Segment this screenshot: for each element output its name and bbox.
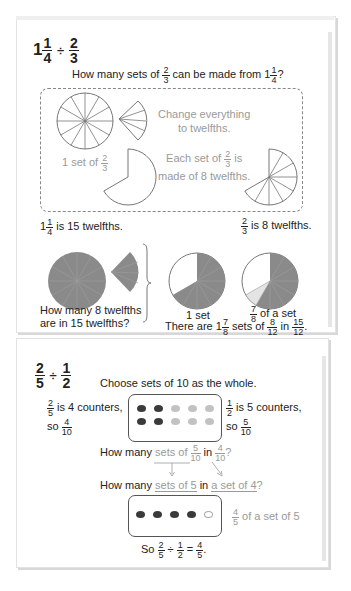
- fifteen-twelfths-caption: 114 is 15 twelfths.: [40, 218, 123, 237]
- brace-icon: [142, 243, 152, 323]
- section-2-subtitle: Choose sets of 10 as the whole.: [100, 377, 257, 389]
- counter-dark: [136, 511, 145, 518]
- filled-wedge-icon: [110, 251, 142, 293]
- question-sets-of-five: How many sets of 5 in a set of 4?: [100, 479, 263, 491]
- section-1-title: 114 ÷ 23: [33, 36, 79, 65]
- counter-dark: [154, 405, 163, 412]
- counter-dark: [137, 405, 146, 412]
- counter-light: [171, 418, 180, 425]
- conclusion: So 25 ÷ 12 = 45.: [141, 541, 206, 560]
- section-1-question: How many sets of 23 can be made from 114…: [72, 66, 284, 85]
- counter-empty: [204, 511, 213, 518]
- two-thirds-outline-icon: [98, 147, 158, 207]
- counter-dark: [137, 418, 146, 425]
- panel-1-edge: [328, 32, 332, 327]
- section-2-title: 25 ÷ 12: [35, 361, 71, 390]
- eight-in-fifteen-question: How many 8 twelfths are in 15 twelfths?: [40, 304, 141, 330]
- counter-light: [205, 405, 214, 412]
- whole-circle-twelfths-icon: [56, 92, 114, 150]
- arrows-icon: [150, 462, 230, 478]
- eight-twelfths-caption: 23 is 8 twelfths.: [241, 217, 312, 236]
- one-half-note: 12 is 5 counters, so 510: [226, 399, 302, 437]
- panel-top-bar: [16, 16, 334, 20]
- counter-light: [171, 405, 180, 412]
- two-fifths-note: 25 is 4 counters, so 410: [47, 399, 123, 437]
- two-thirds-eight-slices-icon: [240, 148, 298, 206]
- question-sets-of-tenths: How many sets of 510 in 410?: [100, 444, 231, 463]
- quarter-wedge-icon: [118, 100, 148, 142]
- counter-light: [188, 418, 197, 425]
- counter-dark: [153, 511, 162, 518]
- change-note: Change everything to twelfths.: [158, 107, 250, 135]
- four-fifths-note: 45 of a set of 5: [232, 508, 300, 527]
- one-set-pie-icon: [167, 251, 227, 311]
- counter-dark: [170, 511, 179, 518]
- seven-eighths-pie-icon: [240, 251, 300, 311]
- section-1-answer: There are 178 sets of 812 in 1512.: [165, 318, 307, 337]
- filled-circle-icon: [47, 251, 107, 311]
- each-set-note: Each set of 23 is made of 8 twelfths.: [158, 150, 250, 183]
- counter-dark: [187, 511, 196, 518]
- counter-light: [188, 405, 197, 412]
- panel-2-edge: [322, 356, 326, 561]
- counter-light: [205, 418, 214, 425]
- counter-dark: [154, 418, 163, 425]
